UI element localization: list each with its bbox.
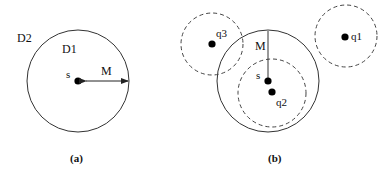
diagram-canvas: D2 D1 s M (a) M s q2 q3 q1 (b) <box>0 0 390 175</box>
label-s: s <box>66 68 70 80</box>
label-m: M <box>101 64 112 78</box>
panel-b: M s q2 q3 q1 (b) <box>181 5 377 165</box>
label-s: s <box>256 69 260 81</box>
label-q1: q1 <box>351 30 362 42</box>
label-d1: D1 <box>62 42 77 56</box>
label-d2: D2 <box>17 31 32 45</box>
point-s <box>74 77 81 84</box>
point-q3 <box>208 40 215 47</box>
label-q3: q3 <box>216 27 228 39</box>
caption-a: (a) <box>70 152 83 165</box>
caption-b: (b) <box>268 152 282 165</box>
point-s <box>264 77 271 84</box>
point-q1 <box>341 33 348 40</box>
panel-a: D2 D1 s M (a) <box>17 30 129 165</box>
label-q2: q2 <box>276 96 287 108</box>
point-q2 <box>268 88 275 95</box>
label-m: M <box>255 39 266 53</box>
